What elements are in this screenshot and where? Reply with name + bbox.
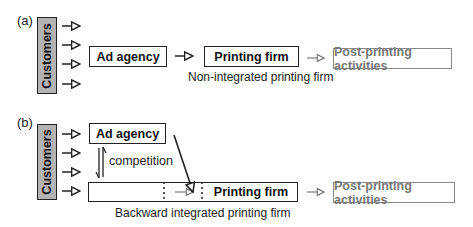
arrows-layer [0, 0, 473, 227]
competition-arrows [96, 147, 106, 178]
customer-arrows-b [62, 134, 80, 191]
customer-arrows-a [62, 26, 80, 84]
diagonal-arrow [174, 135, 193, 192]
